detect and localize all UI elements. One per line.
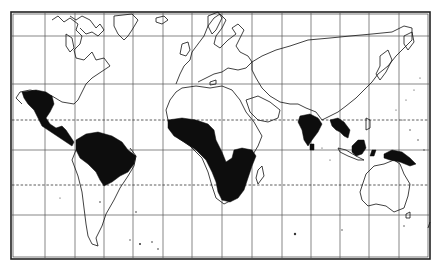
- figure-caption: [90, 264, 350, 272]
- madagascar: [256, 166, 264, 184]
- hudson-bay: [66, 34, 74, 52]
- australia-outline: [360, 160, 410, 212]
- coastlines: [16, 12, 430, 246]
- kamchatka: [404, 32, 414, 50]
- japan: [376, 50, 392, 80]
- shaded-central-africa: [168, 118, 256, 202]
- shaded-central-america: [22, 90, 74, 146]
- europe-outline: [176, 14, 252, 84]
- asia-outline: [252, 26, 412, 120]
- shaded-sri-lanka: [310, 144, 314, 150]
- shaded-india: [298, 114, 322, 146]
- shaded-sulawesi: [370, 150, 376, 156]
- british-isles: [180, 42, 190, 56]
- map-frame: [11, 12, 430, 259]
- iceland-outline: [156, 16, 168, 24]
- world-map: [0, 0, 440, 274]
- shaded-borneo: [352, 140, 366, 156]
